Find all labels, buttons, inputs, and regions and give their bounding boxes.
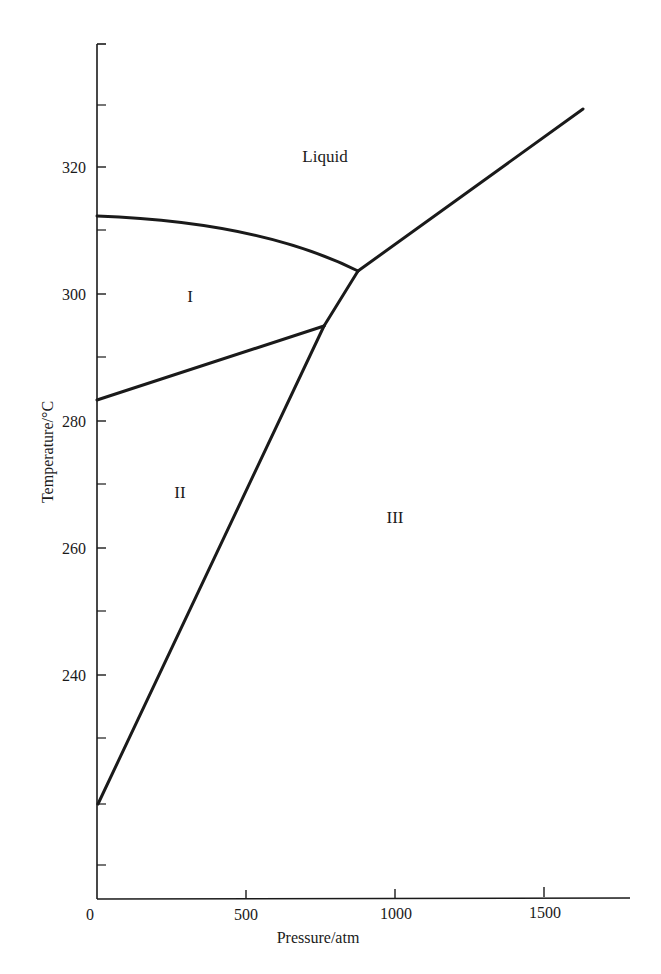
x-tick-label-1500: 1500: [529, 904, 561, 921]
y-axis: [97, 44, 106, 899]
region-label-II: II: [174, 483, 186, 502]
y-tick-label-240: 240: [62, 667, 86, 684]
x-axis: [97, 887, 630, 899]
II-III-boundary: [98, 326, 324, 804]
x-tick-label-1000: 1000: [380, 905, 412, 922]
I-III-boundary: [324, 271, 358, 326]
y-tick-label-260: 260: [62, 540, 86, 557]
x-tick-label-0: 0: [86, 906, 94, 923]
x-axis-title: Pressure/atm: [277, 929, 360, 946]
liquid-I-boundary: [97, 216, 358, 271]
y-tick-label-320: 320: [62, 159, 86, 176]
liquid-III-boundary: [358, 109, 583, 271]
x-tick-label-500: 500: [234, 906, 258, 923]
region-label-III: III: [387, 508, 404, 527]
y-tick-label-280: 280: [62, 413, 86, 430]
y-axis-title: Temperature/°C: [39, 401, 57, 503]
y-tick-label-300: 300: [62, 286, 86, 303]
region-label-I: I: [187, 287, 193, 306]
region-label-liquid: Liquid: [302, 147, 348, 166]
I-II-boundary: [97, 326, 324, 400]
phase-diagram: 320 300 280 260 240 0 500 1000 1500 Pres…: [0, 0, 661, 974]
